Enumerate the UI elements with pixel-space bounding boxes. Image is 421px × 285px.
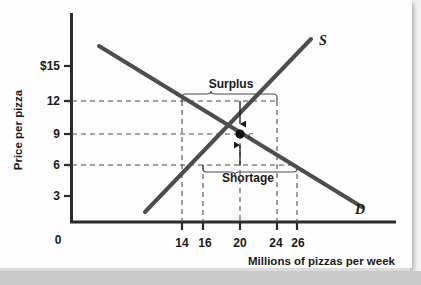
x-axis-title: Millions of pizzas per week <box>248 255 396 267</box>
x-tick-label-20: 20 <box>233 236 247 250</box>
y-tick-label-6: 6 <box>53 158 60 172</box>
demand-curve-label: D <box>354 202 365 217</box>
dashed-price-lines <box>72 101 297 165</box>
origin-label: 0 <box>55 233 62 247</box>
shortage-label: Shortage <box>222 171 274 185</box>
surplus-label: Surplus <box>209 77 254 91</box>
supply-curve <box>145 39 311 212</box>
y-tick-label-15: $15 <box>40 59 60 73</box>
supply-demand-chart: $15 12 9 6 3 14 16 20 24 26 0 Price per … <box>0 0 421 285</box>
x-tick-label-14: 14 <box>175 236 189 250</box>
x-tick-label-26: 26 <box>291 236 305 250</box>
figure-root: $15 12 9 6 3 14 16 20 24 26 0 Price per … <box>0 0 421 285</box>
y-axis-title: Price per pizza <box>12 89 24 170</box>
equilibrium-point-label: c <box>248 128 253 140</box>
equilibrium-point <box>235 129 244 138</box>
supply-curve-label: S <box>319 33 327 48</box>
x-tick-label-16: 16 <box>198 236 212 250</box>
surplus-brace <box>182 91 277 101</box>
y-tick-label-9: 9 <box>53 127 60 141</box>
y-tick-label-3: 3 <box>53 189 60 203</box>
y-tick-label-12: 12 <box>47 94 61 108</box>
x-tick-label-24: 24 <box>269 236 283 250</box>
